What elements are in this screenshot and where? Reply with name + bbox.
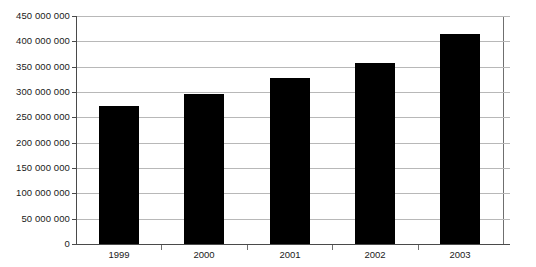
y-axis-tick-label: 350 000 000 [0,62,70,72]
plot-right-border [503,16,504,245]
y-axis-tick-mark [72,92,77,93]
y-axis-tick-mark [72,219,77,220]
x-axis-tick-label: 2000 [164,250,244,260]
y-axis-tick-mark [72,168,77,169]
x-axis-tick-mark [418,245,419,250]
axis-baseline [76,244,510,245]
y-axis-tick-label: 150 000 000 [0,163,70,173]
y-axis-tick-label: 0 [0,239,70,249]
y-axis-tick-label: 50 000 000 [0,214,70,224]
bar [440,34,480,244]
y-axis-tick-mark [72,41,77,42]
y-axis-tick-mark [72,193,77,194]
y-axis-tick-label: 250 000 000 [0,112,70,122]
x-axis-tick-label: 2002 [335,250,415,260]
y-axis-tick-label: 200 000 000 [0,138,70,148]
y-axis-tick-mark [72,143,77,144]
x-axis-tick-label: 1999 [79,250,159,260]
x-axis-tick-mark [332,245,333,250]
y-axis-tick-mark [72,67,77,68]
y-axis-tick-label: 300 000 000 [0,87,70,97]
y-axis-tick-label: 400 000 000 [0,36,70,46]
bar [270,78,310,244]
y-axis-tick-label: 450 000 000 [0,11,70,21]
bar [184,94,224,244]
bar [99,106,139,244]
x-axis-tick-mark [247,245,248,250]
x-axis-tick-label: 2001 [250,250,330,260]
y-axis-tick-label: 100 000 000 [0,188,70,198]
bar [355,63,395,244]
y-axis-line [76,16,77,245]
y-axis-tick-mark [72,244,77,245]
x-axis-tick-label: 2003 [420,250,500,260]
x-axis-tick-mark [161,245,162,250]
gridline [76,16,510,17]
y-axis-tick-mark [72,16,77,17]
y-axis-tick-mark [72,117,77,118]
bar-chart: 050 000 000100 000 000150 000 000200 000… [0,0,536,267]
